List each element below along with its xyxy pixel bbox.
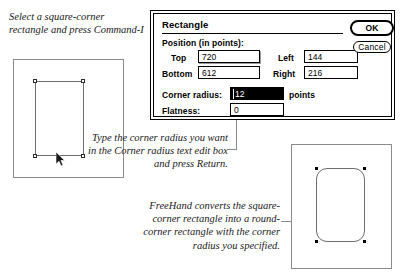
top-field-shadow (199, 63, 261, 64)
caption-select-rectangle: Select a square-corner rectangle and pre… (9, 10, 145, 36)
bottom-input[interactable]: 612 (198, 66, 260, 79)
mouse-pointer-icon (56, 152, 66, 167)
leader-line-corner-radius-horizontal (227, 149, 237, 150)
dialog-title-rule (162, 33, 343, 34)
caption-type-corner-radius: Type the corner radius you want in the C… (88, 131, 228, 171)
corner-radius-units-label: points (289, 90, 315, 100)
corner-radius-input[interactable]: 12 (230, 87, 284, 100)
flatness-input[interactable]: 0 (230, 103, 284, 116)
selection-handle-bottom-left[interactable] (33, 154, 37, 158)
left-field-label: Left (278, 53, 294, 63)
flatness-label: Flatness: (162, 106, 200, 116)
result-handle-bottom-left[interactable] (315, 240, 318, 243)
right-input[interactable]: 216 (304, 66, 358, 79)
selection-handle-top-right[interactable] (81, 79, 85, 83)
text-caret (233, 89, 234, 99)
right-field-label: Right (273, 69, 295, 79)
top-field-shadow-right (260, 51, 261, 64)
left-input[interactable]: 144 (304, 50, 358, 63)
caption-freehand-converts: FreeHand converts the square-corner rect… (130, 199, 280, 252)
round-corner-rectangle-shape[interactable] (316, 168, 365, 242)
dialog-title: Rectangle (162, 19, 208, 30)
dialog-inner-frame: Rectangle Position (in points): Top 720 … (153, 13, 392, 117)
selection-handle-bottom-right[interactable] (81, 154, 85, 158)
cancel-button[interactable]: Cancel (353, 41, 391, 53)
square-corner-rectangle-shape[interactable] (35, 81, 84, 156)
result-handle-bottom-right[interactable] (363, 240, 366, 243)
rectangle-dialog: Rectangle Position (in points): Top 720 … (150, 10, 395, 120)
result-handle-top-right[interactable] (363, 167, 366, 170)
bottom-field-label: Bottom (162, 69, 192, 79)
result-handle-top-left[interactable] (315, 167, 318, 170)
top-field-label: Top (171, 53, 186, 63)
illustration-page: Select a square-corner rectangle and pre… (0, 0, 400, 275)
top-input[interactable]: 720 (198, 50, 260, 63)
corner-radius-value: 12 (235, 89, 244, 99)
position-group-label: Position (in points): (162, 38, 244, 48)
ok-button[interactable]: OK (350, 20, 394, 36)
corner-radius-label: Corner radius: (162, 90, 222, 100)
selection-handle-top-left[interactable] (33, 79, 37, 83)
